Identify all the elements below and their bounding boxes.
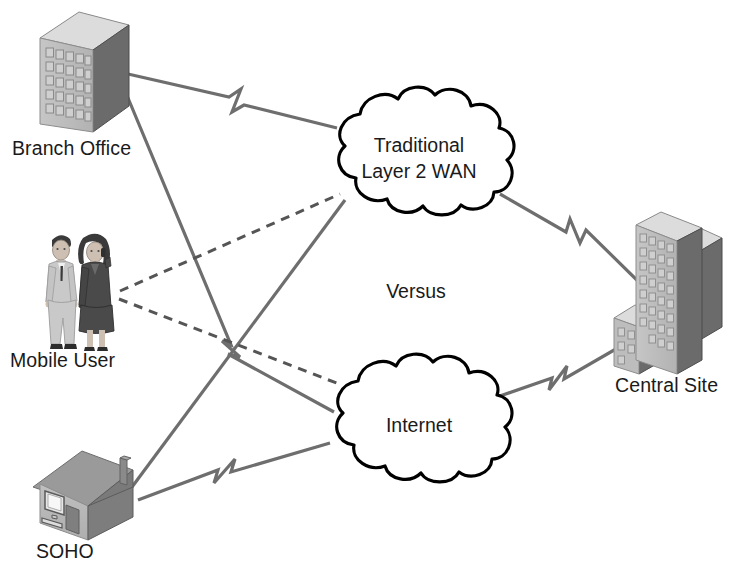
link-mobile-user-to-internet [119,299,339,384]
branch-office-label: Branch Office [12,137,131,159]
cloud-label-line2-traditional-wan: Layer 2 WAN [361,160,476,182]
link-branch-office-to-internet [123,86,334,412]
person-woman [78,234,114,351]
central-site-label: Central Site [615,374,718,396]
soho-node[interactable]: SOHO [33,451,133,562]
office-building-icon-center [636,212,702,374]
office-building-icon [40,12,129,132]
two-people-icon [46,234,115,351]
traditional-layer2-wan-cloud[interactable]: Traditional Layer 2 WAN [339,87,514,215]
link-soho-to-internet [138,443,330,500]
cloud-label-internet: Internet [386,414,453,436]
house-with-computer-icon [33,451,133,540]
link-internet-to-central-site [497,342,628,397]
mobile-user-node[interactable]: Mobile User [10,234,116,371]
central-site-node[interactable]: Central Site [614,212,722,396]
link-traditional-wan-to-central-site [500,194,648,291]
network-diagram: Traditional Layer 2 WAN Internet Versus [0,0,731,566]
link-branch-office-to-traditional-wan [128,74,337,128]
link-mobile-user-to-traditional-wan [120,194,340,291]
link-soho-to-traditional-wan [132,200,345,487]
diagram-canvas: Traditional Layer 2 WAN Internet Versus [0,0,731,566]
mobile-user-label: Mobile User [10,349,116,371]
soho-label: SOHO [36,540,94,562]
person-man [46,235,78,349]
internet-cloud[interactable]: Internet [337,354,512,482]
versus-label: Versus [386,280,446,302]
branch-office-node[interactable]: Branch Office [12,12,131,159]
cloud-label-line1-traditional-wan: Traditional [374,134,464,156]
